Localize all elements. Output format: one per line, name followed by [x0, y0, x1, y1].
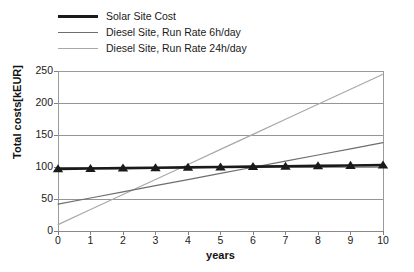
plot-area [0, 0, 414, 272]
chart-figure: Solar Site Cost Diesel Site, Run Rate 6h… [0, 0, 414, 272]
series-line-2 [58, 74, 383, 224]
series-line-1 [58, 143, 383, 204]
